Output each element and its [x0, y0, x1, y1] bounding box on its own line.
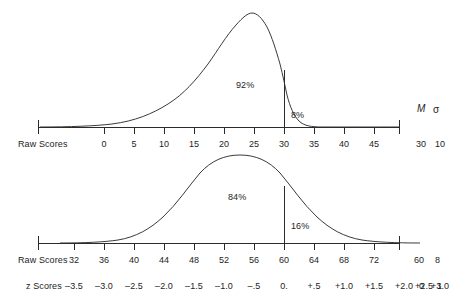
z-scores-label-rest: Scores	[31, 281, 62, 291]
bottom-tick-label: 48	[189, 255, 199, 265]
top-tick-label: 0	[101, 139, 106, 149]
z-sigma-value: 1	[437, 281, 442, 291]
top-tick-label: 25	[249, 139, 259, 149]
top-axis-ticks	[105, 127, 375, 134]
bottom-area-right-percent: 16%	[291, 221, 309, 231]
bottom-mean-value: 60	[414, 255, 424, 265]
top-mean-value: 30	[416, 139, 426, 149]
z-tick-label: +.5	[307, 281, 320, 291]
z-tick-label: –3.0	[95, 281, 113, 291]
top-mean-symbol: M	[417, 104, 425, 114]
z-tick-label: 0.	[280, 281, 288, 291]
bottom-tick-label: 44	[159, 255, 169, 265]
bottom-axis-ticks	[75, 243, 375, 250]
top-distribution-curve	[40, 13, 400, 127]
top-tick-label: 5	[131, 139, 136, 149]
top-tick-label: 35	[309, 139, 319, 149]
normal-distribution-figure: Raw Scores 92% 8% M σ 30 10 0 5 10 15 20…	[0, 0, 453, 300]
top-chart-group	[38, 13, 400, 134]
top-tick-label: 30	[279, 139, 289, 149]
bottom-sigma-value: 8	[435, 255, 440, 265]
top-area-left-percent: 92%	[236, 80, 254, 90]
bottom-tick-label: 40	[129, 255, 139, 265]
top-sigma-symbol: σ	[433, 105, 439, 115]
z-tick-label: +1.5	[365, 281, 383, 291]
z-tick-label: –1.0	[215, 281, 233, 291]
z-tick-label: –1.5	[185, 281, 203, 291]
top-tick-label: 10	[159, 139, 169, 149]
top-sigma-value: 10	[435, 139, 445, 149]
z-tick-label: +1.0	[335, 281, 353, 291]
top-tick-label: 45	[369, 139, 379, 149]
z-scores-row-label: z Scores	[26, 281, 62, 291]
bottom-tick-label: 72	[369, 255, 379, 265]
top-tick-label: 20	[219, 139, 229, 149]
bottom-tick-label: 32	[69, 255, 79, 265]
top-tick-label: 40	[339, 139, 349, 149]
z-tick-label: –2.0	[155, 281, 173, 291]
top-raw-scores-row-label: Raw Scores	[18, 139, 68, 149]
top-area-right-percent: 8%	[291, 110, 304, 120]
top-tick-label: 15	[189, 139, 199, 149]
bottom-tick-label: 36	[99, 255, 109, 265]
z-tick-label: –3.5	[65, 281, 83, 291]
bottom-tick-label: 68	[339, 255, 349, 265]
bottom-raw-scores-row-label: Raw Scores	[18, 255, 68, 265]
z-tick-label: –2.5	[125, 281, 143, 291]
bottom-tick-label: 52	[219, 255, 229, 265]
bottom-tick-label: 56	[249, 255, 259, 265]
bottom-chart-group	[38, 155, 420, 250]
z-tick-label: –.5	[248, 281, 261, 291]
bottom-tick-label: 64	[309, 255, 319, 265]
z-mean-value: 0	[419, 281, 424, 291]
bottom-tick-label: 60	[279, 255, 289, 265]
bottom-area-left-percent: 84%	[228, 192, 246, 202]
z-tick-label: +2.0	[395, 281, 413, 291]
